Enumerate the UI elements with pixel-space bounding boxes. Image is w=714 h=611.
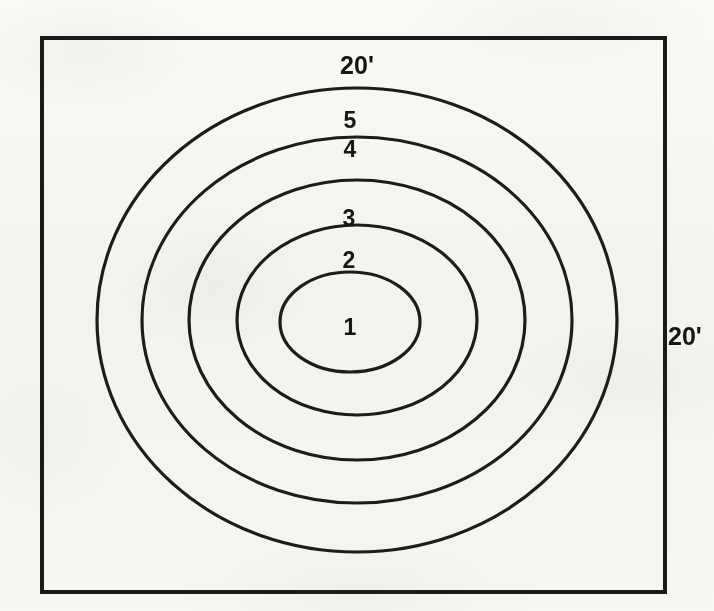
ring-5-outline [97, 88, 617, 552]
ring-2-outline [237, 225, 477, 415]
figure-page: 20' 20' 5 4 3 2 1 [0, 0, 714, 611]
ring-label-2: 2 [343, 247, 356, 273]
ring-group [97, 88, 617, 552]
ring-label-1: 1 [344, 314, 357, 340]
ring-label-5: 5 [344, 107, 357, 133]
dimension-label-top: 20' [340, 51, 374, 79]
ring-label-3: 3 [343, 205, 356, 231]
ring-4-outline [142, 137, 572, 503]
concentric-ring-diagram: 20' 20' 5 4 3 2 1 [0, 0, 714, 611]
dimension-label-right: 20' [668, 322, 702, 350]
ring-label-4: 4 [344, 136, 357, 162]
ring-3-outline [189, 180, 525, 460]
